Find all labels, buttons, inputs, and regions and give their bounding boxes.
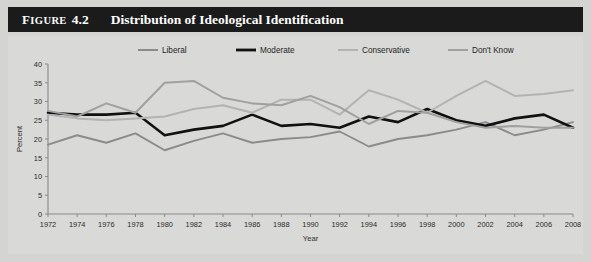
x-tick-label: 1994 — [361, 220, 377, 229]
x-tick-label: 2006 — [536, 220, 552, 229]
y-axis-title: Percent — [15, 125, 24, 152]
figure-label: FIGURE — [22, 12, 67, 28]
y-tick-label: 15 — [34, 154, 42, 163]
x-axis-title: Year — [303, 234, 319, 243]
x-tick-label: 1980 — [156, 220, 172, 229]
x-tick-label: 1982 — [186, 220, 202, 229]
figure-label-smallcaps: IGURE — [30, 15, 66, 26]
series-line-don-t-know — [48, 81, 573, 128]
line-chart: LiberalModerateConservativeDon't Know 05… — [8, 36, 583, 254]
figure-number: 4.2 — [72, 12, 89, 28]
y-tick-label: 35 — [34, 79, 42, 88]
y-tick-label: 0 — [38, 210, 42, 219]
y-tick-label: 25 — [34, 116, 42, 125]
legend-label-don-t-know: Don't Know — [472, 46, 514, 55]
x-tick-label: 1978 — [127, 220, 143, 229]
x-tick-label: 1996 — [390, 220, 406, 229]
chart-axes — [45, 64, 573, 217]
y-tick-label: 40 — [34, 60, 42, 69]
y-tick-label: 10 — [34, 172, 42, 181]
x-tick-label: 1986 — [244, 220, 260, 229]
x-tick-label: 1974 — [69, 220, 85, 229]
figure-container: FIGURE 4.2 Distribution of Ideological I… — [0, 0, 591, 262]
x-tick-label: 2002 — [477, 220, 493, 229]
x-tick-label: 1972 — [40, 220, 56, 229]
chart-panel: LiberalModerateConservativeDon't Know 05… — [8, 36, 583, 254]
x-tick-label: 2004 — [506, 220, 522, 229]
chart-legend: LiberalModerateConservativeDon't Know — [138, 46, 514, 55]
x-tick-label: 2000 — [448, 220, 464, 229]
series-line-moderate — [48, 109, 573, 135]
x-tick-label: 1976 — [98, 220, 114, 229]
figure-title-text: Distribution of Ideological Identificati… — [111, 12, 344, 28]
x-tick-label: 2008 — [565, 220, 581, 229]
x-tick-label: 1998 — [419, 220, 435, 229]
y-tick-label: 5 — [38, 191, 42, 200]
y-tick-label: 20 — [34, 135, 42, 144]
figure-title-bar: FIGURE 4.2 Distribution of Ideological I… — [8, 7, 583, 32]
chart-series — [48, 81, 573, 150]
x-tick-label: 1984 — [215, 220, 231, 229]
x-tick-label: 1988 — [273, 220, 289, 229]
x-tick-label: 1992 — [331, 220, 347, 229]
y-tick-label: 30 — [34, 97, 42, 106]
legend-label-liberal: Liberal — [162, 46, 187, 55]
x-tick-label: 1990 — [302, 220, 318, 229]
legend-label-conservative: Conservative — [362, 46, 410, 55]
legend-label-moderate: Moderate — [260, 46, 295, 55]
